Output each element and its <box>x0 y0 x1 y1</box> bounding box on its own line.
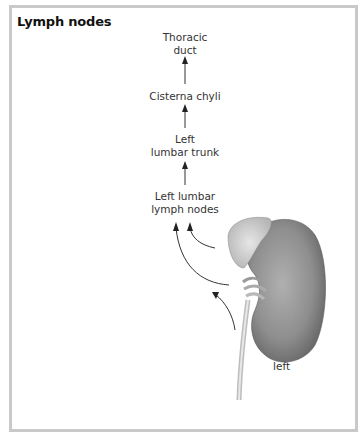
arrow-up-icon <box>182 56 188 84</box>
arrow-up-icon <box>182 161 188 185</box>
curved-arrow-icon <box>187 222 215 248</box>
arrow-up-icon <box>182 104 188 128</box>
curved-arrow-icon <box>173 222 229 285</box>
flow-diagram <box>0 0 362 440</box>
curved-arrow-icon <box>212 292 235 330</box>
kidney-illustration <box>228 217 326 400</box>
